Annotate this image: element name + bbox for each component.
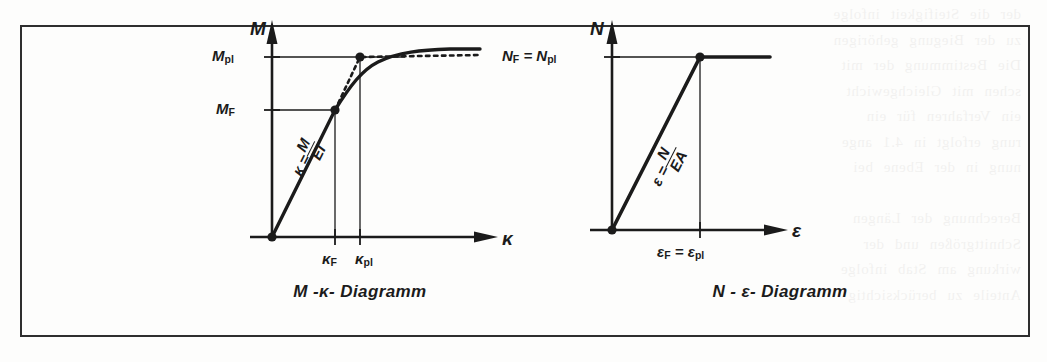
- curve-idealized-plateau: [362, 55, 480, 57]
- axis-label-normalforce: N: [590, 18, 604, 40]
- ytick-label-nf-npl: NF = Npl: [502, 47, 557, 65]
- axis-label-curvature: κ: [502, 228, 513, 250]
- ytick-label-mf-main: M: [216, 100, 229, 117]
- ytick-label-nf-main: N: [502, 47, 513, 64]
- curve-idealized-rise: [335, 57, 360, 110]
- xtick-label-kappaf-main: κ: [322, 250, 331, 267]
- ytick-label-mpl: Mpl: [212, 47, 234, 65]
- xtick-label-kappapl: κpl: [355, 250, 373, 268]
- ytick-label-mf-sub: F: [229, 106, 235, 118]
- y-axis-arrowhead: [607, 20, 618, 44]
- ytick-label-npl-sub: pl: [547, 53, 556, 65]
- xtick-label-kappaf: κF: [322, 250, 337, 268]
- ytick-label-mpl-sub: pl: [225, 53, 234, 65]
- xtick-label-epsf-epspl: εF = εpl: [657, 243, 704, 261]
- ytick-label-mpl-main: M: [212, 47, 225, 64]
- xtick-label-kappapl-main: κ: [355, 250, 364, 267]
- marker-yield-point: [695, 52, 704, 61]
- diagram-moment-curvature: M κ Mpl MF κF κpl κ =MEI M -κ- Diagramm: [150, 0, 550, 312]
- xtick-label-epsf-eq: = ε: [671, 243, 695, 260]
- curve-elastic-perfectly-plastic: [612, 57, 770, 230]
- ytick-label-nf-eq: = N: [519, 47, 547, 64]
- axis-label-strain: ε: [792, 220, 801, 242]
- diagram-normalforce-strain: N ε NF = Npl εF = εpl ε =NEA N - ε- Diag…: [540, 0, 960, 312]
- xtick-label-kappaf-sub: F: [331, 256, 337, 268]
- y-axis-arrowhead: [267, 20, 278, 44]
- figure-page: der die Steifigkeit infolge zu der Biegu…: [0, 0, 1047, 362]
- normalforce-strain-plot: [540, 0, 960, 300]
- ytick-label-mf: MF: [216, 100, 235, 118]
- marker-origin: [267, 232, 276, 241]
- marker-plastic-moment: [355, 52, 364, 61]
- axis-label-moment: M: [250, 18, 266, 40]
- marker-origin: [607, 225, 616, 234]
- x-axis-arrowhead: [764, 225, 788, 236]
- moment-curvature-plot: [150, 0, 550, 300]
- caption-moment-curvature: M -κ- Diagramm: [160, 282, 560, 302]
- caption-normalforce-strain: N - ε- Diagramm: [570, 282, 990, 302]
- x-axis-arrowhead: [474, 232, 498, 243]
- xtick-label-epspl-sub: pl: [695, 249, 704, 261]
- marker-first-yield: [330, 105, 339, 114]
- xtick-label-kappapl-sub: pl: [364, 256, 373, 268]
